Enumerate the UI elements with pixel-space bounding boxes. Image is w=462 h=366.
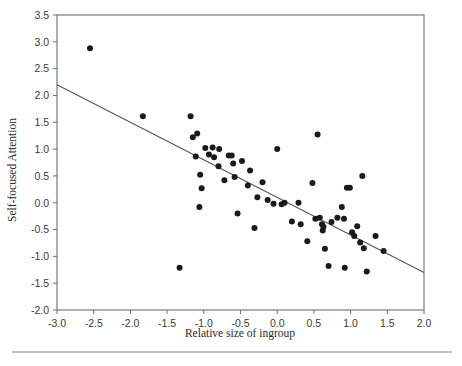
data-point xyxy=(309,180,315,186)
data-point xyxy=(194,131,200,137)
x-tick-label: -2.0 xyxy=(121,317,139,329)
data-point xyxy=(320,228,326,234)
data-point xyxy=(354,223,360,229)
data-point xyxy=(304,238,310,244)
y-axis-tick-labels: -2.0-1.5-1.0-0.50.00.51.01.52.02.53.03.5 xyxy=(31,9,49,316)
y-tick-label: 1.5 xyxy=(34,116,49,128)
data-point xyxy=(196,204,202,210)
data-point xyxy=(87,45,93,51)
y-tick-label: -1.5 xyxy=(31,277,49,289)
scatter-plot-figure: -3.0-2.5-2.0-1.5-1.0-0.50.00.51.01.52.0 … xyxy=(0,0,462,366)
plot-canvas: -3.0-2.5-2.0-1.5-1.0-0.50.00.51.01.52.0 … xyxy=(0,0,462,366)
data-point xyxy=(342,265,348,271)
data-point xyxy=(339,204,345,210)
x-tick-label: 2.0 xyxy=(417,317,432,329)
x-axis-tick-marks xyxy=(57,310,424,314)
data-point xyxy=(140,113,146,119)
x-tick-label: -3.0 xyxy=(48,317,66,329)
data-point xyxy=(271,201,277,207)
x-tick-label: 1.5 xyxy=(380,317,395,329)
x-tick-label: 1.0 xyxy=(343,317,358,329)
y-tick-label: 1.0 xyxy=(34,143,49,155)
y-tick-label: 2.0 xyxy=(34,89,49,101)
y-tick-label: -0.5 xyxy=(31,223,49,235)
data-point xyxy=(322,246,328,252)
data-point xyxy=(295,200,301,206)
y-tick-label: 0.0 xyxy=(34,197,49,209)
data-point xyxy=(188,113,194,119)
x-axis-title: Relative size of ingroup xyxy=(185,327,295,340)
x-tick-label: -2.5 xyxy=(85,317,103,329)
x-tick-label: 0.5 xyxy=(307,317,322,329)
data-point xyxy=(334,215,340,221)
y-tick-label: 0.5 xyxy=(34,170,49,182)
data-point xyxy=(265,197,271,203)
data-point xyxy=(197,172,203,178)
data-point xyxy=(211,154,217,160)
data-point xyxy=(357,239,363,245)
data-point xyxy=(364,268,370,274)
data-point xyxy=(206,151,212,157)
data-points-group xyxy=(87,45,387,274)
y-axis-title: Self-focused Attention xyxy=(6,118,18,222)
data-point xyxy=(247,168,253,174)
data-point xyxy=(215,163,221,169)
data-point xyxy=(232,174,238,180)
data-point xyxy=(315,132,321,138)
y-tick-label: 3.5 xyxy=(34,9,49,21)
data-point xyxy=(341,216,347,222)
data-point xyxy=(254,194,260,200)
data-point xyxy=(298,221,304,227)
data-point xyxy=(177,265,183,271)
data-point xyxy=(193,154,199,160)
data-point xyxy=(373,233,379,239)
data-point xyxy=(239,158,245,164)
data-point xyxy=(326,263,332,269)
data-point xyxy=(221,177,227,183)
data-point xyxy=(361,245,367,251)
data-point xyxy=(245,183,251,189)
data-point xyxy=(260,179,266,185)
x-tick-label: -1.5 xyxy=(158,317,176,329)
data-point xyxy=(359,173,365,179)
y-axis-tick-marks xyxy=(53,15,57,310)
data-point xyxy=(317,215,323,221)
data-point xyxy=(381,248,387,254)
data-point xyxy=(347,185,353,191)
data-point xyxy=(351,233,357,239)
y-tick-label: -2.0 xyxy=(31,304,49,316)
data-point xyxy=(289,219,295,225)
data-point xyxy=(329,219,335,225)
data-point xyxy=(235,210,241,216)
data-point xyxy=(230,161,236,167)
y-tick-label: 3.0 xyxy=(34,36,49,48)
data-point xyxy=(251,225,257,231)
data-point xyxy=(199,185,205,191)
y-tick-label: -1.0 xyxy=(31,250,49,262)
y-tick-label: 2.5 xyxy=(34,62,49,74)
data-point xyxy=(210,144,216,150)
data-point xyxy=(202,145,208,151)
data-point xyxy=(274,146,280,152)
data-point xyxy=(216,146,222,152)
regression-trendline xyxy=(57,85,424,273)
data-point xyxy=(282,200,288,206)
data-point xyxy=(229,153,235,159)
